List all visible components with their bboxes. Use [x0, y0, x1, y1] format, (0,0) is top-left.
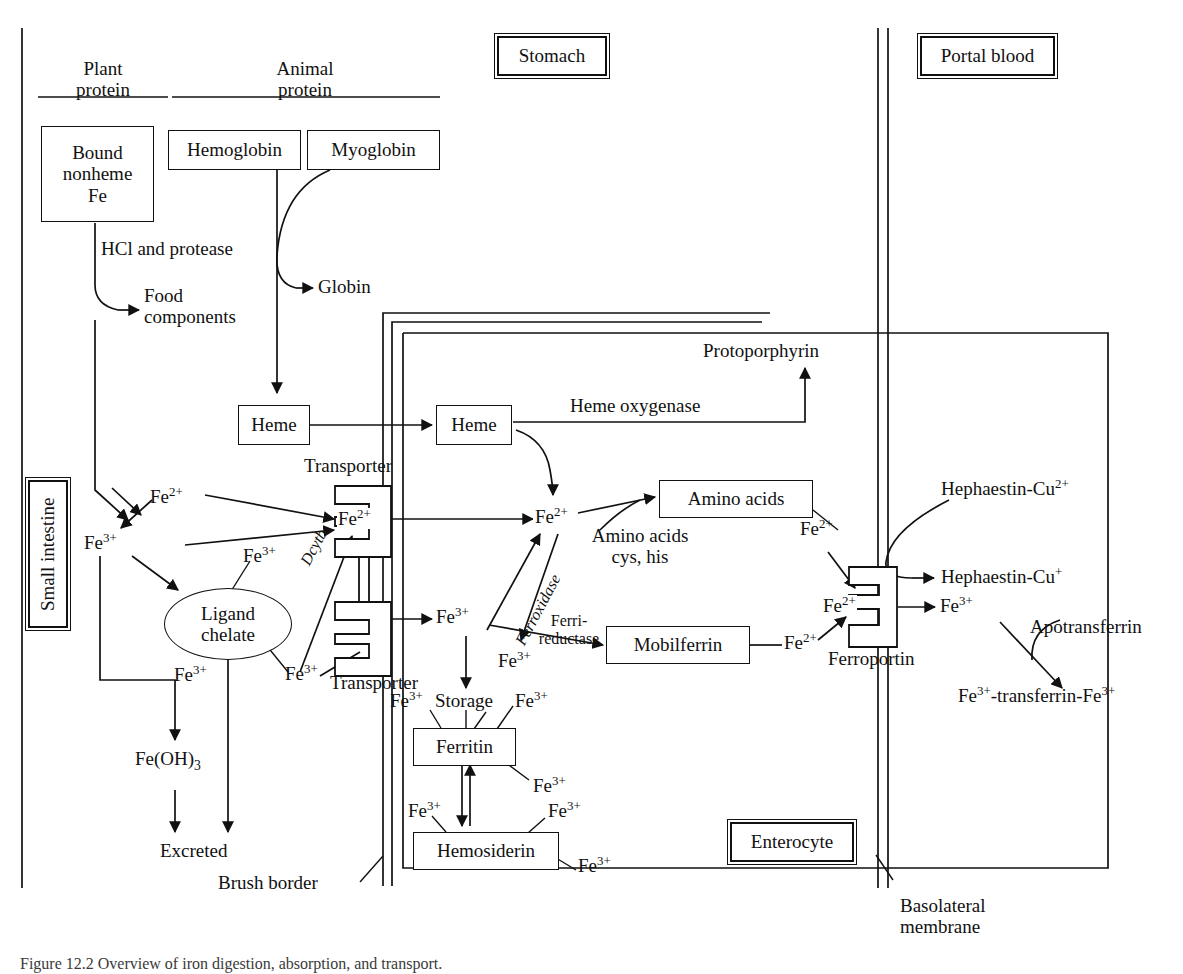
figure-caption: Figure 12.2 Overview of iron digestion, … [20, 955, 442, 973]
amino-acids-cys-line2: cys, his [612, 546, 669, 567]
hephaestin-cu2-charge: 2+ [1055, 476, 1069, 491]
amino-acids-label: Amino acids [688, 488, 785, 510]
plant-protein-line2: protein [76, 79, 130, 100]
basolateral-line1: Basolateral [900, 895, 985, 916]
animal-protein-line1: Animal [277, 58, 334, 79]
animal-protein-header: Animal protein [225, 58, 385, 101]
transferrin-mid: -transferrin-Fe [991, 685, 1102, 706]
ferritin-label: Ferritin [436, 736, 493, 758]
ferritin-fe3-label: Fe3+ [533, 775, 566, 796]
box-hemoglobin: Hemoglobin [168, 130, 301, 170]
storage-fe3-right-label: Fe3+ [515, 690, 548, 711]
hemosiderin-fe3-right-bottom-label: Fe3+ [578, 855, 611, 876]
compartment-small-intestine: Small intestine [28, 480, 68, 628]
box-ferritin: Ferritin [413, 728, 516, 766]
ferri-reductase-line1: Ferri- [551, 612, 587, 629]
ferri-reductase-label: Ferri- reductase [522, 612, 616, 647]
lumen-fe2-label: Fe2+ [150, 486, 183, 507]
transporter-source-fe3-label: Fe3+ [174, 664, 207, 685]
amino-acids-cys-line1: Amino acids [592, 525, 689, 546]
heme-oxygenase-label: Heme oxygenase [570, 395, 700, 416]
ligand-chelate-line2: chelate [201, 624, 255, 645]
lumen-fe3-charge: 3+ [103, 530, 117, 545]
heme-lumen-label: Heme [251, 414, 296, 436]
transporter-lower-shape [333, 600, 393, 678]
compartment-stomach: Stomach [497, 36, 607, 76]
portal-blood-label: Portal blood [941, 45, 1034, 67]
hemosiderin-fe3-right-top-label: Fe3+ [548, 800, 581, 821]
heme-cell-label: Heme [451, 414, 496, 436]
plant-protein-line1: Plant [83, 58, 122, 79]
fe-hydroxide-subscript: 3 [194, 758, 201, 773]
transporter-fe2-label: Fe2+ [337, 508, 372, 529]
box-heme-lumen: Heme [238, 405, 310, 445]
food-components-line1: Food [144, 285, 183, 306]
globin-label: Globin [318, 276, 371, 297]
ligand-chelate-line1: Ligand [201, 603, 255, 624]
fe-hydroxide-label: Fe(OH)3 [135, 748, 201, 773]
chelate-fe3-bottom-label: Fe3+ [285, 663, 318, 684]
hephaestin-cu1-charge: + [1055, 564, 1062, 579]
excreted-label: Excreted [160, 840, 228, 861]
myoglobin-label: Myoglobin [331, 139, 415, 161]
box-amino-acids: Amino acids [659, 480, 813, 518]
hemosiderin-fe3-left-label: Fe3+ [408, 800, 441, 821]
storage-label: Storage [435, 690, 493, 711]
enterocyte-label: Enterocyte [751, 831, 833, 853]
bound-nonheme-line3: Fe [88, 185, 107, 207]
food-components-label: Food components [144, 285, 274, 328]
small-intestine-label: Small intestine [37, 497, 59, 610]
protoporphyrin-label: Protoporphyrin [703, 340, 819, 361]
apotransferrin-label: Apotransferrin [1030, 616, 1142, 637]
amino-acids-fe2-label: Fe2+ [800, 518, 833, 539]
bound-nonheme-line2: nonheme [63, 163, 133, 185]
bound-nonheme-line1: Bound [72, 142, 123, 164]
mobilferrin-fe2-label: Fe2+ [784, 632, 817, 653]
brush-border-label: Brush border [218, 872, 318, 893]
mobilferrin-label: Mobilferrin [634, 634, 723, 656]
ferroportin-fe2-label: Fe2+ [822, 595, 857, 616]
box-hemosiderin: Hemosiderin [413, 832, 559, 870]
hemosiderin-label: Hemosiderin [437, 840, 535, 862]
compartment-portal-blood: Portal blood [920, 36, 1055, 76]
ferri-reductase-line2: reductase [539, 630, 599, 647]
compartment-enterocyte: Enterocyte [730, 822, 854, 862]
reductase-fe3-label: Fe3+ [498, 650, 531, 671]
box-myoglobin: Myoglobin [307, 130, 440, 170]
box-bound-nonheme-fe: Bound nonheme Fe [41, 126, 154, 222]
exported-fe3-label: Fe3+ [940, 595, 973, 616]
oval-ligand-chelate: Ligand chelate [164, 588, 292, 660]
basolateral-line2: membrane [900, 916, 980, 937]
food-components-line2: components [144, 306, 236, 327]
hcl-and-protease-label: HCl and protease [101, 238, 233, 259]
cytosol-fe2-label: Fe2+ [533, 506, 570, 527]
plant-protein-header: Plant protein [28, 58, 178, 101]
ferroportin-label: Ferroportin [828, 648, 915, 669]
lumen-fe3-label: Fe3+ [84, 532, 117, 553]
fe-transferrin-fe-label: Fe3+-transferrin-Fe3+ [958, 685, 1115, 706]
hemoglobin-label: Hemoglobin [187, 139, 282, 161]
box-heme-cell: Heme [436, 405, 512, 445]
animal-protein-line2: protein [278, 79, 332, 100]
amino-acids-cys-his-label: Amino acids cys, his [570, 525, 710, 568]
hephaestin-cu1-label: Hephaestin-Cu+ [941, 566, 1062, 587]
lumen-fe2-charge: 2+ [169, 484, 183, 499]
transporter-top-label: Transporter [304, 455, 392, 476]
chelate-fe3-top-label: Fe3+ [243, 545, 276, 566]
stomach-label: Stomach [519, 45, 586, 67]
box-mobilferrin: Mobilferrin [606, 626, 750, 664]
dcytb-label: Dcytb [297, 526, 331, 568]
hephaestin-cu2-label: Hephaestin-Cu2+ [941, 478, 1069, 499]
cytosol-fe3-label: Fe3+ [434, 606, 471, 627]
figure-canvas: Stomach Portal blood Small intestine Ent… [0, 0, 1183, 974]
storage-fe3-left-label: Fe3+ [390, 690, 423, 711]
basolateral-membrane-label: Basolateral membrane [900, 895, 1060, 938]
transporter-linker [357, 558, 371, 602]
